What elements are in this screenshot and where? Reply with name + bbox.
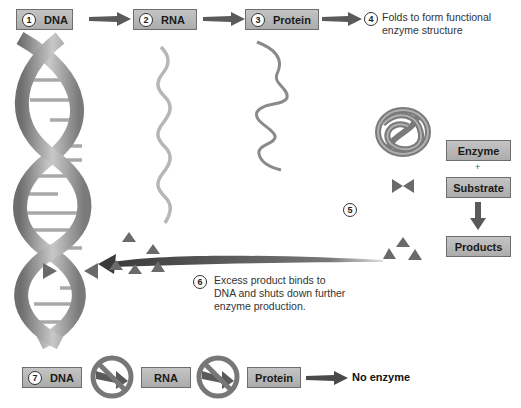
arrow-rna-to-protein-icon bbox=[203, 12, 245, 26]
product-bound-to-dna-left-icon bbox=[43, 263, 57, 279]
step-2-badge: 2 bbox=[139, 13, 153, 27]
protein-box: 3 Protein bbox=[245, 9, 319, 30]
step-6-badge: 6 bbox=[193, 275, 207, 289]
folded-enzyme-icon bbox=[373, 104, 433, 160]
substrate-bowtie-icon bbox=[392, 179, 414, 193]
product-triangles-left-icon bbox=[108, 232, 170, 284]
plus-sign: + bbox=[475, 162, 480, 172]
bottom-dna-box: 7 DNA bbox=[22, 367, 82, 388]
dna-double-helix-icon bbox=[0, 38, 100, 343]
bottom-dna-label: DNA bbox=[50, 372, 74, 384]
product-triangles-right-icon bbox=[383, 237, 423, 261]
dna-label: DNA bbox=[44, 14, 68, 26]
substrate-box: Substrate bbox=[446, 177, 511, 198]
arrow-protein-to-fold-icon bbox=[322, 12, 362, 26]
products-box: Products bbox=[446, 236, 511, 257]
step-6-text: Excess product binds to DNA and shuts do… bbox=[214, 274, 345, 313]
protein-label: Protein bbox=[273, 14, 311, 26]
product-bound-to-dna-right-icon bbox=[84, 263, 98, 279]
arrow-down-to-products-icon bbox=[470, 202, 486, 230]
no-enzyme-label: No enzyme bbox=[352, 371, 410, 383]
blocked-translation-icon bbox=[196, 355, 240, 399]
step-5-badge: 5 bbox=[343, 203, 357, 217]
step-7-badge: 7 bbox=[28, 371, 42, 385]
step-4-text: Folds to form functional enzyme structur… bbox=[382, 11, 491, 37]
arrow-protein-to-no-enzyme-icon bbox=[306, 371, 348, 385]
step-3-badge: 3 bbox=[251, 13, 265, 27]
blocked-transcription-icon bbox=[90, 355, 134, 399]
rna-box: 2 RNA bbox=[133, 9, 197, 30]
dna-box: 1 DNA bbox=[16, 9, 73, 30]
rna-label: RNA bbox=[161, 14, 185, 26]
rna-strand-icon bbox=[155, 45, 185, 225]
protein-strand-icon bbox=[253, 40, 303, 170]
step-1-badge: 1 bbox=[22, 13, 36, 27]
bottom-protein-box: Protein bbox=[247, 367, 301, 388]
step-4-badge: 4 bbox=[364, 12, 378, 26]
bottom-rna-box: RNA bbox=[141, 367, 191, 388]
enzyme-box: Enzyme bbox=[446, 140, 511, 161]
arrow-dna-to-rna-icon bbox=[89, 12, 131, 26]
